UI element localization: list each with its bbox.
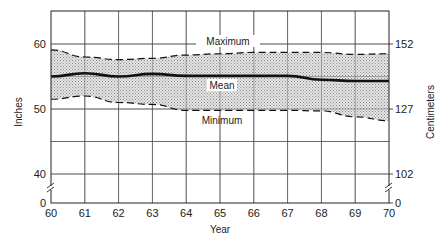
x-tick-label: 68 bbox=[315, 207, 327, 219]
y-tick-label-left: 0 bbox=[40, 197, 46, 209]
minimum-label: Minimum bbox=[202, 115, 243, 126]
mean-label: Mean bbox=[209, 80, 234, 91]
x-tick-label: 64 bbox=[180, 207, 192, 219]
y-axis-title-left: Inches bbox=[13, 97, 24, 126]
x-axis-title: Year bbox=[210, 224, 231, 235]
x-tick-label: 67 bbox=[281, 207, 293, 219]
y-axis-title-right: Centimeters bbox=[425, 85, 436, 139]
height-range-chart: 606162636465666768697060504001521271020 … bbox=[0, 0, 440, 249]
y-tick-label-left: 50 bbox=[34, 103, 46, 115]
x-tick-label: 63 bbox=[146, 207, 158, 219]
y-tick-label-right: 102 bbox=[395, 168, 413, 180]
x-tick-label: 66 bbox=[248, 207, 260, 219]
y-tick-label-left: 60 bbox=[34, 38, 46, 50]
y-tick-label-right: 0 bbox=[395, 197, 401, 209]
x-tick-label: 60 bbox=[45, 207, 57, 219]
y-tick-label-right: 152 bbox=[395, 38, 413, 50]
x-tick-label: 61 bbox=[79, 207, 91, 219]
x-tick-label: 62 bbox=[112, 207, 124, 219]
y-tick-label-right: 127 bbox=[395, 103, 413, 115]
x-tick-label: 70 bbox=[383, 207, 395, 219]
x-tick-label: 65 bbox=[214, 207, 226, 219]
y-tick-label-left: 40 bbox=[34, 168, 46, 180]
maximum-label: Maximum bbox=[206, 36, 249, 47]
x-tick-label: 69 bbox=[349, 207, 361, 219]
